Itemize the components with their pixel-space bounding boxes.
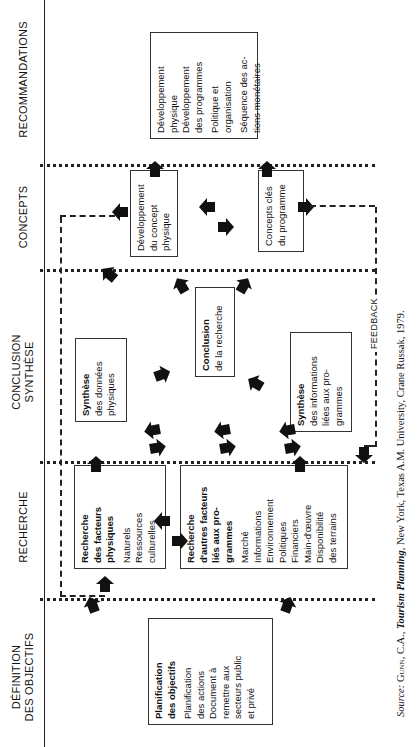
- arrow-icon: [199, 198, 215, 216]
- feedback-line: [60, 595, 105, 597]
- arrow-icon: [278, 420, 297, 441]
- arrow-icon: [244, 371, 267, 395]
- arrow-icon: [232, 274, 256, 297]
- feedback-line: [364, 445, 375, 447]
- feedback-label: FEEDBACK: [369, 295, 379, 352]
- arrows-layer: [0, 0, 420, 747]
- feedback-line-top: [60, 217, 62, 597]
- arrow-icon: [148, 437, 167, 458]
- arrow-icon: [355, 447, 373, 463]
- arrow-icon: [97, 262, 121, 286]
- arrow-icon: [146, 161, 164, 177]
- arrow-icon: [218, 218, 234, 236]
- feedback-line: [310, 205, 375, 207]
- arrow-icon: [87, 456, 105, 472]
- arrow-icon: [277, 594, 299, 615]
- arrow-icon: [298, 198, 314, 216]
- arrow-icon: [96, 576, 114, 592]
- arrow-icon: [218, 437, 237, 458]
- arrow-icon: [112, 203, 128, 221]
- arrow-icon: [291, 456, 309, 472]
- arrow-icon: [143, 420, 162, 441]
- arrow-icon: [81, 594, 103, 615]
- source-caption: Source: Gunn, C.A., Tourism Planning, Ne…: [395, 310, 406, 717]
- arrow-icon: [213, 420, 232, 441]
- feedback-line: [60, 215, 115, 217]
- source-rest: , New York, Texas A.M. University, Crane…: [395, 310, 406, 550]
- arrow-icon: [169, 274, 193, 297]
- arrow-icon: [152, 363, 173, 385]
- diagram-canvas: DÉFINITION DES OBJECTIFS RECHERCHE CONCL…: [0, 0, 420, 747]
- source-prefix: Source: [395, 688, 406, 717]
- arrow-icon: [258, 161, 276, 177]
- source-author: Gunn, C.A.,: [395, 632, 406, 682]
- arrow-icon: [172, 532, 188, 550]
- arrow-icon: [283, 437, 302, 458]
- source-title: Tourism Planning: [395, 550, 406, 629]
- arrow-icon: [154, 512, 170, 530]
